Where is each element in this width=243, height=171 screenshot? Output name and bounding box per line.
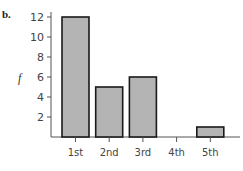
x-tick-label: 5th [202, 147, 219, 158]
x-tick-label: 2nd [100, 147, 119, 158]
y-tick-label: 2 [37, 111, 44, 124]
bar-chart: 246810121st2nd3rd4th5th [0, 0, 243, 171]
y-tick-label: 4 [37, 91, 44, 104]
bar-3rd [129, 77, 156, 137]
bar-2nd [96, 87, 123, 137]
y-tick-label: 12 [30, 11, 44, 24]
y-tick-label: 6 [37, 71, 44, 84]
bar-1st [62, 17, 89, 137]
y-tick-label: 10 [30, 31, 44, 44]
bar-5th [197, 127, 224, 137]
x-tick-label: 1st [68, 147, 84, 158]
y-tick-label: 8 [37, 51, 44, 64]
x-tick-label: 4th [168, 147, 185, 158]
x-tick-label: 3rd [135, 147, 152, 158]
